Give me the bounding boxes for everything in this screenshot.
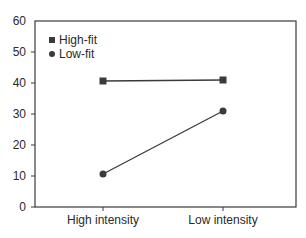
circle-marker-icon [100,171,107,178]
chart-svg: 0 10 20 30 40 50 60 High intensity Low i… [0,0,306,238]
line-chart: 0 10 20 30 40 50 60 High intensity Low i… [0,0,306,238]
y-tick-label: 60 [13,14,27,28]
square-marker-icon [49,37,55,43]
circle-marker-icon [49,51,55,57]
y-tick-label: 0 [19,200,26,214]
y-tick-label: 40 [13,76,27,90]
y-tick-label: 10 [13,169,27,183]
circle-marker-icon [220,108,227,115]
y-tick-label: 20 [13,138,27,152]
series-low-fit [100,108,227,178]
legend: High-fit Low-fit [49,33,98,61]
square-marker-icon [220,77,227,84]
y-axis: 0 10 20 30 40 50 60 [13,14,35,214]
x-tick-label: High intensity [67,213,139,227]
x-axis: High intensity Low intensity [67,207,258,227]
y-tick-label: 30 [13,107,27,121]
x-tick-label: Low intensity [188,213,257,227]
series-high-fit [100,77,227,85]
legend-label-high-fit: High-fit [59,33,98,47]
legend-label-low-fit: Low-fit [59,47,95,61]
y-tick-label: 50 [13,45,27,59]
square-marker-icon [100,78,107,85]
